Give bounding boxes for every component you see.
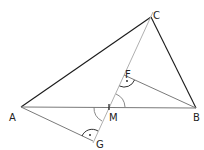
- right-angle-dot-g: [89, 134, 91, 136]
- label-f: F: [125, 69, 131, 80]
- label-c: C: [153, 10, 160, 21]
- median-cg: [93, 12, 153, 143]
- angle-arc-upper: [116, 94, 125, 107]
- side-ac: [21, 17, 151, 107]
- label-m: M: [109, 112, 118, 123]
- triangle-diagram: A B C M F G: [0, 0, 204, 150]
- side-cb: [151, 17, 196, 108]
- label-b: B: [193, 112, 200, 123]
- angle-arc-lower: [94, 107, 102, 121]
- perpendicular-bf: [124, 75, 196, 108]
- label-a: A: [9, 112, 16, 123]
- right-angle-dot-f: [126, 80, 128, 82]
- label-g: G: [96, 139, 104, 150]
